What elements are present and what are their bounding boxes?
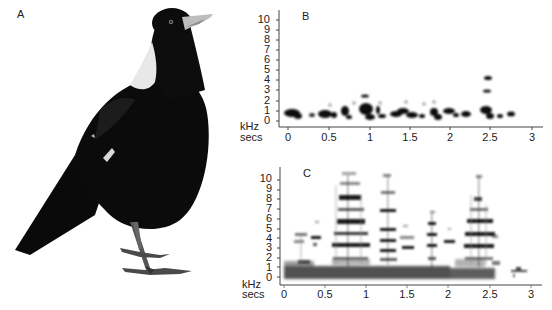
x-tick: 0.5 — [317, 132, 341, 143]
x-tick: 0.5 — [313, 289, 337, 300]
panel-c-spectrogram: C — [230, 155, 552, 310]
x-tick: 1.5 — [395, 289, 419, 300]
spectrogram-c-plot — [230, 155, 552, 310]
x-tick: 1.5 — [398, 132, 422, 143]
x-axis-unit: secs — [242, 289, 265, 300]
x-tick: 2.5 — [478, 132, 502, 143]
x-tick: 2.5 — [478, 289, 502, 300]
x-tick: 2 — [436, 289, 460, 300]
x-tick: 3 — [520, 132, 544, 143]
x-tick: 1 — [354, 289, 378, 300]
panel-b-spectrogram: B — [230, 0, 552, 155]
panel-a-label: A — [17, 8, 24, 20]
panel-a: A — [0, 0, 230, 310]
x-tick: 0 — [276, 132, 300, 143]
x-tick: 0 — [272, 289, 296, 300]
x-axis-unit: secs — [240, 132, 263, 143]
x-tick: 3 — [519, 289, 543, 300]
x-tick: 2 — [438, 132, 462, 143]
magpie-photo — [0, 0, 230, 310]
x-tick: 1 — [358, 132, 382, 143]
